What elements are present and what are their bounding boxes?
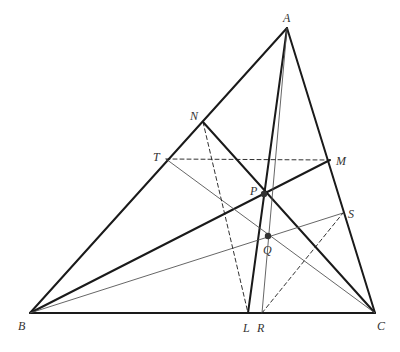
dashed-segments [166,122,343,313]
segment-ab-thick [30,28,287,313]
point-p-dot [261,191,267,197]
point-q-dot [265,233,271,239]
segment-ar-thin [262,28,287,313]
segment-tm-dashed [166,159,330,160]
thin-segments [30,28,375,313]
label-l: L [242,321,250,335]
segment-bm-thick [30,160,330,313]
segment-bs-thin [30,213,343,313]
label-p: P [249,184,258,198]
label-r: R [256,321,265,335]
label-m: M [335,154,347,168]
segment-al-thick [248,28,287,313]
segment-nl-dashed [203,122,248,313]
label-b: B [18,319,26,333]
label-n: N [189,109,199,123]
label-t: T [153,150,161,164]
label-a: A [282,11,291,25]
label-c: C [377,319,386,333]
triangle-figure: ABCNTMPQSLR [0,0,400,352]
geometry-diagram: ABCNTMPQSLR [0,0,400,352]
label-q: Q [263,243,272,257]
label-s: S [348,207,354,221]
segment-ac-thick [287,28,375,313]
thick-segments [30,28,375,313]
